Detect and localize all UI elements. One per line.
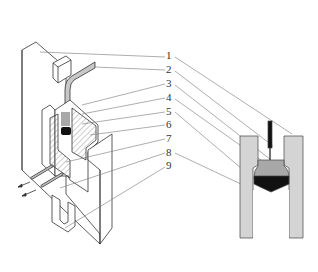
- dark-material: [254, 176, 289, 192]
- dark-slug: [61, 127, 71, 135]
- punch-head: [254, 160, 289, 177]
- label-7: 7: [166, 133, 172, 144]
- label-5: 5: [166, 106, 172, 117]
- label-2: 2: [166, 64, 172, 75]
- right-section-view: [240, 121, 303, 238]
- diagram-canvas: [0, 0, 318, 272]
- label-1: 1: [166, 50, 172, 61]
- cavity-gray: [61, 112, 70, 126]
- label-4: 4: [166, 92, 172, 103]
- label-8: 8: [166, 147, 172, 158]
- left-isometric-view: [18, 42, 112, 244]
- label-3: 3: [166, 78, 172, 89]
- label-9: 9: [166, 160, 172, 171]
- cavity-bottom: [253, 190, 289, 238]
- punch-stem: [268, 121, 272, 148]
- label-6: 6: [166, 119, 172, 130]
